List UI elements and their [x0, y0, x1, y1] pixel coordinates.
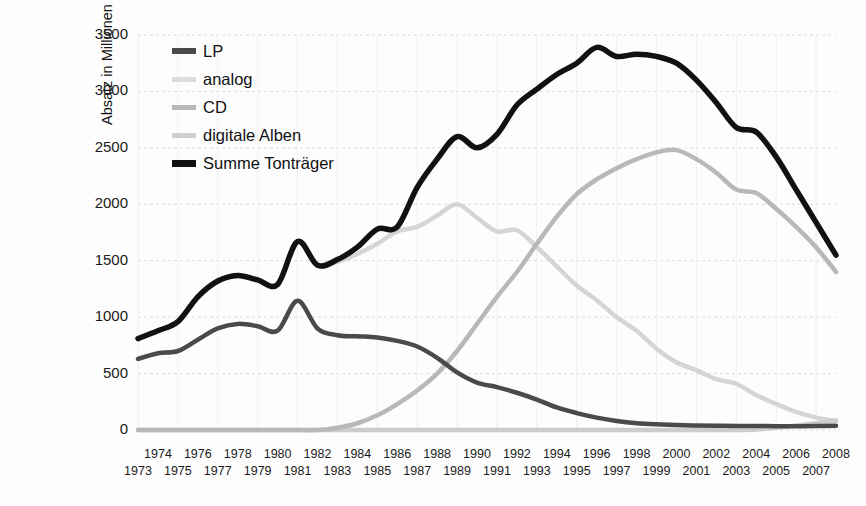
- chart-legend: LPanalogCDdigitale AlbenSumme Tonträger: [172, 40, 334, 174]
- legend-swatch-icon: [172, 133, 196, 138]
- legend-item[interactable]: LP: [172, 40, 334, 62]
- plot-area: [0, 0, 866, 506]
- legend-item[interactable]: CD: [172, 96, 334, 118]
- legend-swatch-icon: [172, 160, 196, 167]
- series-line-lp: [138, 301, 836, 426]
- legend-swatch-icon: [172, 105, 196, 110]
- legend-swatch-icon: [172, 77, 196, 82]
- legend-item-label: Summe Tonträger: [203, 155, 334, 172]
- legend-swatch-icon: [172, 48, 196, 54]
- legend-item-label: analog: [203, 71, 253, 88]
- legend-item[interactable]: Summe Tonträger: [172, 152, 334, 174]
- legend-item-label: CD: [203, 99, 227, 116]
- chart-container: Absatz in Millionen Stück 05001000150020…: [0, 0, 866, 506]
- legend-item-label: digitale Alben: [203, 127, 301, 144]
- legend-item-label: LP: [203, 43, 223, 60]
- legend-item[interactable]: analog: [172, 68, 334, 90]
- series-line-cd: [138, 150, 836, 430]
- legend-item[interactable]: digitale Alben: [172, 124, 334, 146]
